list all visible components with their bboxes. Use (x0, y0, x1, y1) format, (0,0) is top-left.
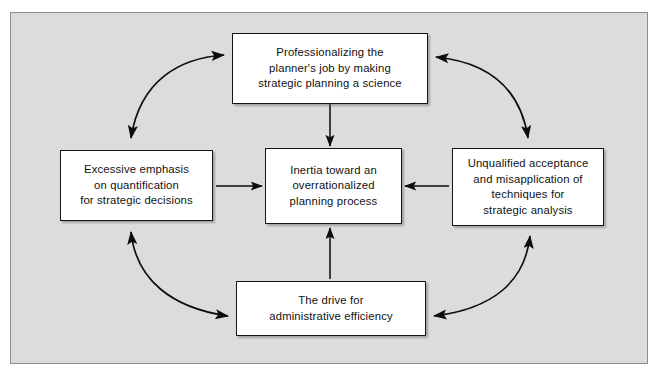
node-excessive-emphasis: Excessive emphasis on quantification for… (60, 150, 213, 221)
curve-professionalizing-unqualified-acceptance (436, 57, 528, 138)
curve-excessive-emphasis-administrative-efficiency (131, 232, 228, 316)
node-inertia-label: Inertia toward an overrationalized plann… (284, 163, 384, 210)
node-excessive-emphasis-label: Excessive emphasis on quantification for… (74, 162, 199, 209)
node-administrative-efficiency-label: The drive for administrative efficiency (263, 293, 398, 324)
curve-professionalizing-excessive-impasis (131, 55, 224, 138)
node-professionalizing: Professionalizing the planner's job by m… (232, 33, 428, 104)
diagram-screen: Professionalizing the planner's job by m… (0, 0, 660, 376)
node-administrative-efficiency: The drive for administrative efficiency (236, 281, 426, 336)
node-unqualified-acceptance-label: Unqualified acceptance and misapplicatio… (462, 156, 595, 218)
node-inertia: Inertia toward an overrationalized plann… (265, 148, 402, 224)
node-professionalizing-label: Professionalizing the planner's job by m… (252, 45, 408, 92)
node-unqualified-acceptance: Unqualified acceptance and misapplicatio… (452, 148, 604, 226)
curve-administrative-efficiency-unqualified-acceptance (434, 236, 530, 316)
